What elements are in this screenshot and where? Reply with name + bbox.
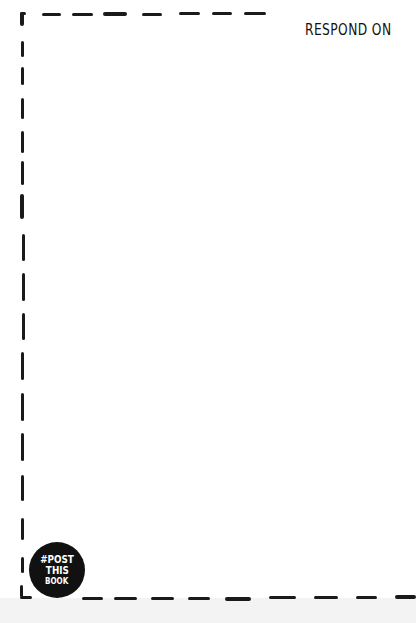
- badge-line-2: THIS: [45, 565, 68, 576]
- post-this-book-badge: #POST THIS BOOK: [29, 542, 85, 598]
- page-heading: RESPOND ON: [305, 20, 392, 39]
- page-edge-shadow: [0, 598, 416, 623]
- badge-line-3: BOOK: [45, 576, 68, 587]
- book-page: RESPOND ON #POST THIS BOOK: [0, 0, 416, 623]
